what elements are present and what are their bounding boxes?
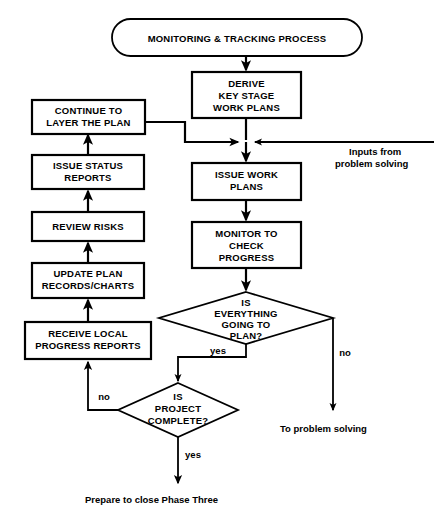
decision1-line-3: GOING TO <box>222 319 271 330</box>
edge-continue-to-junction <box>145 122 238 142</box>
monitor-line-2: CHECK <box>229 240 264 251</box>
label-prepare-close-phase-three: Prepare to close Phase Three <box>85 494 218 505</box>
label-decision2-yes: yes <box>185 449 201 460</box>
node-issue-status-reports[interactable]: ISSUE STATUS REPORTS <box>32 155 144 189</box>
receive-local-line-2: PROGRESS REPORTS <box>35 340 141 351</box>
decision1-line-1: IS <box>241 297 250 308</box>
issue-status-line-2: REPORTS <box>64 172 111 183</box>
edge-decision2-no <box>88 362 118 410</box>
node-update-plan-records-charts[interactable]: UPDATE PLAN RECORDS/CHARTS <box>32 263 144 298</box>
issue-work-line-1: ISSUE WORK <box>215 169 278 180</box>
node-receive-local-progress-reports[interactable]: RECEIVE LOCAL PROGRESS REPORTS <box>25 322 151 359</box>
update-plan-line-1: UPDATE PLAN <box>53 268 122 279</box>
terminator-label: MONITORING & TRACKING PROCESS <box>148 33 327 44</box>
decision2-line-2: PROJECT <box>155 403 201 414</box>
node-monitor-check-progress[interactable]: MONITOR TO CHECK PROGRESS <box>192 222 301 268</box>
node-continue-to-layer-the-plan[interactable]: CONTINUE TO LAYER THE PLAN <box>32 100 145 134</box>
monitor-line-3: PROGRESS <box>219 252 274 263</box>
node-issue-work-plans[interactable]: ISSUE WORK PLANS <box>192 163 301 200</box>
continue-line-1: CONTINUE TO <box>55 105 122 116</box>
label-decision1-yes: yes <box>210 345 226 356</box>
monitor-line-1: MONITOR TO <box>215 228 277 239</box>
issue-work-line-2: PLANS <box>230 181 263 192</box>
label-to-problem-solving: To problem solving <box>280 423 367 434</box>
label-decision1-no: no <box>339 347 351 358</box>
derive-line-2: KEY STAGE <box>219 90 275 101</box>
derive-line-1: DERIVE <box>228 78 265 89</box>
receive-local-line-1: RECEIVE LOCAL <box>48 328 128 339</box>
issue-status-line-1: ISSUE STATUS <box>53 160 123 171</box>
decision1-line-2: EVERYTHING <box>214 308 277 319</box>
node-decision-is-everything-going-to-plan[interactable]: IS EVERYTHING GOING TO PLAN? <box>159 292 333 344</box>
inputs-label-line-1: Inputs from <box>349 146 401 157</box>
decision2-line-3: COMPLETE? <box>148 415 208 426</box>
node-derive-key-stage-work-plans[interactable]: DERIVE KEY STAGE WORK PLANS <box>192 72 301 118</box>
review-risks-line-1: REVIEW RISKS <box>52 221 124 232</box>
node-review-risks[interactable]: REVIEW RISKS <box>32 212 144 241</box>
node-decision-is-project-complete[interactable]: IS PROJECT COMPLETE? <box>118 383 238 437</box>
label-decision2-no: no <box>98 391 110 402</box>
inputs-label-line-2: problem solving <box>335 158 409 169</box>
continue-line-2: LAYER THE PLAN <box>46 117 130 128</box>
decision1-line-4: PLAN? <box>230 330 263 341</box>
node-monitoring-tracking-process[interactable]: MONITORING & TRACKING PROCESS <box>112 19 362 56</box>
decision2-line-1: IS <box>173 391 182 402</box>
derive-line-3: WORK PLANS <box>213 102 280 113</box>
update-plan-line-2: RECORDS/CHARTS <box>42 280 135 291</box>
flowchart-canvas: MONITORING & TRACKING PROCESS DERIVE KEY… <box>0 0 441 523</box>
